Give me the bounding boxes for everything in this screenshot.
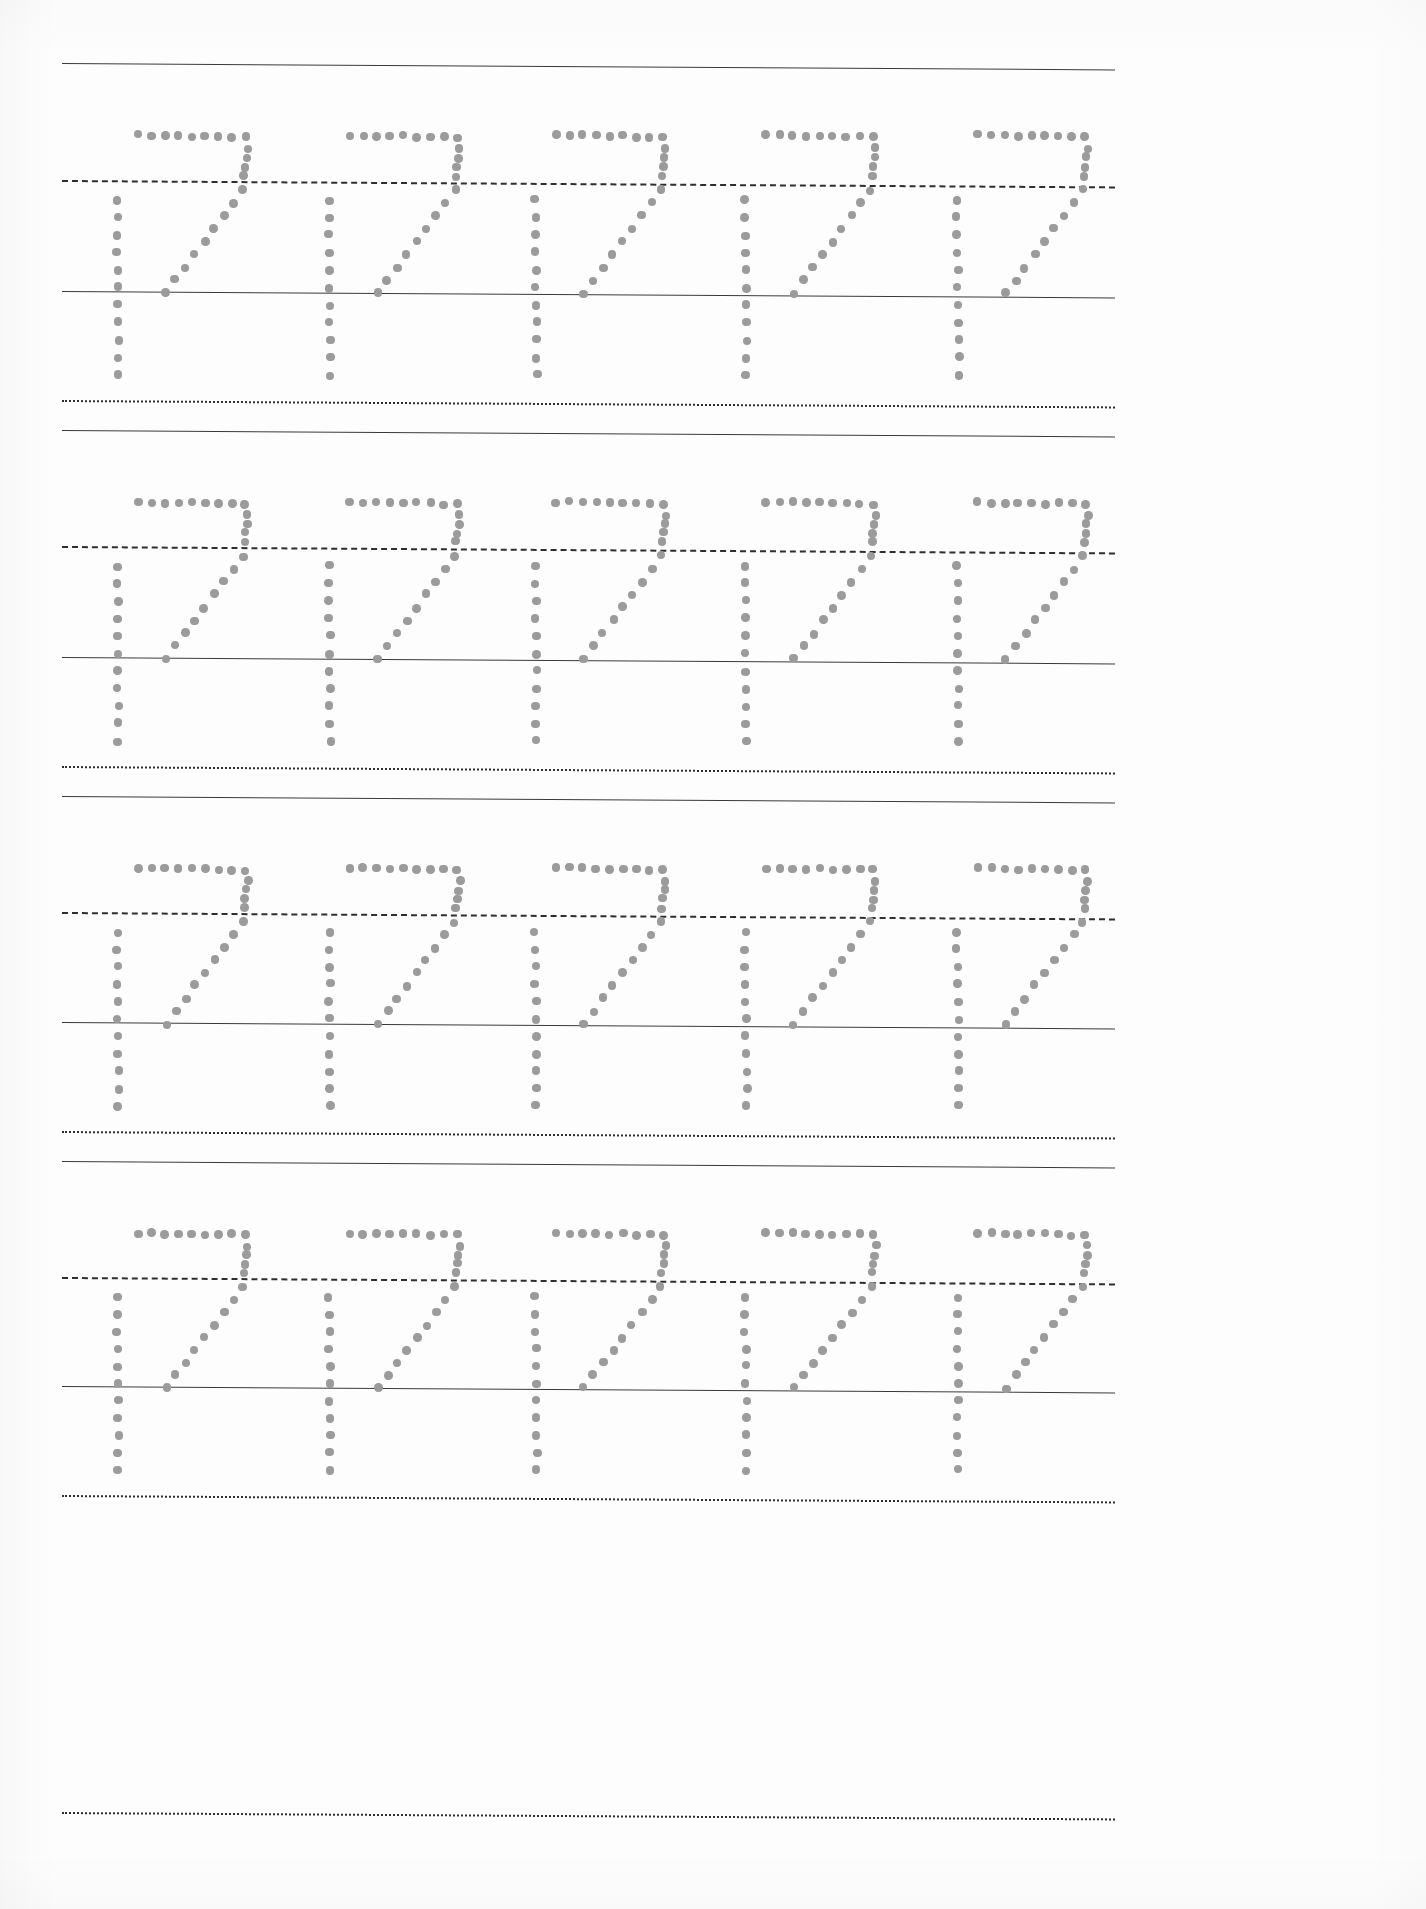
- guide-line-midline-dashed-row-2: [62, 546, 1115, 554]
- trace-dot: [819, 982, 828, 991]
- trace-dot: [147, 132, 156, 141]
- trace-dot: [608, 250, 617, 259]
- trace-dot: [210, 589, 219, 598]
- trace-dot: [450, 552, 459, 561]
- trace-dot: [1001, 1230, 1010, 1239]
- trace-dot: [426, 1231, 435, 1240]
- trace-dot: [346, 132, 355, 141]
- trace-dot: [531, 946, 540, 955]
- trace-dot: [372, 132, 381, 141]
- trace-dot: [842, 1230, 851, 1239]
- trace-dot: [855, 500, 864, 509]
- trace-dot: [326, 372, 335, 381]
- trace-dot: [423, 1322, 432, 1331]
- trace-dot: [227, 1229, 236, 1238]
- trace-dot: [325, 1311, 334, 1320]
- guide-line-top-solid-row-1: [62, 63, 1115, 70]
- trace-dot: [532, 962, 541, 971]
- trace-dot: [383, 642, 392, 651]
- trace-dot: [802, 132, 811, 141]
- trace-dot: [422, 225, 431, 234]
- worksheet-page: [0, 0, 1426, 1909]
- trace-dot: [241, 528, 250, 537]
- trace-dot: [531, 283, 540, 292]
- trace-dot: [450, 919, 459, 928]
- trace-dot: [829, 866, 838, 875]
- trace-dot: [113, 196, 122, 205]
- trace-dot: [531, 247, 540, 256]
- trace-dot: [530, 928, 539, 937]
- trace-dot: [325, 720, 334, 729]
- trace-dot: [589, 641, 598, 650]
- trace-dot: [872, 1241, 881, 1250]
- trace-dot: [645, 866, 654, 875]
- trace-dot: [741, 720, 750, 729]
- trace-dot: [1027, 1229, 1036, 1238]
- trace-dot: [1081, 163, 1090, 172]
- trace-dot: [374, 1020, 383, 1029]
- trace-dot: [953, 196, 962, 205]
- trace-dot: [552, 1229, 561, 1238]
- trace-dot: [324, 614, 333, 623]
- trace-dot: [533, 666, 542, 675]
- trace-dot: [578, 863, 587, 872]
- trace-dot: [326, 353, 335, 362]
- trace-dot: [219, 577, 228, 586]
- trace-dot: [532, 354, 541, 363]
- trace-dot: [456, 876, 465, 885]
- trace-dot: [858, 565, 867, 574]
- trace-dot: [114, 597, 123, 606]
- trace-dot: [326, 979, 335, 988]
- trace-dot: [579, 498, 588, 507]
- trace-dot: [228, 499, 237, 508]
- trace-dot: [1041, 500, 1050, 509]
- trace-dot: [661, 885, 670, 894]
- trace-dot: [828, 1231, 837, 1240]
- trace-dot: [638, 1308, 647, 1317]
- trace-dot: [199, 604, 208, 613]
- trace-dot: [134, 1230, 143, 1239]
- trace-dot: [1028, 131, 1037, 140]
- trace-dot: [326, 1327, 335, 1336]
- trace-dot: [847, 578, 856, 587]
- trace-dot: [742, 928, 751, 937]
- trace-dot: [742, 685, 751, 694]
- trace-dot: [869, 501, 878, 510]
- trace-dot: [451, 904, 460, 913]
- trace-dot: [1021, 1358, 1030, 1367]
- trace-dot: [647, 931, 656, 940]
- trace-dot: [227, 133, 236, 142]
- trace-dot: [648, 565, 657, 574]
- trace-dot: [174, 1230, 183, 1239]
- trace-dot: [432, 1308, 441, 1317]
- trace-dot: [210, 1321, 219, 1330]
- trace-dot: [324, 230, 333, 239]
- trace-dot: [802, 498, 811, 507]
- trace-dot: [113, 684, 122, 693]
- trace-dot: [1080, 132, 1089, 141]
- trace-dot: [324, 579, 333, 588]
- trace-dot: [619, 865, 628, 874]
- trace-dot: [741, 578, 750, 587]
- trace-dot: [829, 968, 838, 977]
- trace-dot: [867, 552, 876, 561]
- trace-dot: [741, 249, 750, 258]
- trace-dot: [799, 275, 808, 284]
- trace-dot: [531, 1310, 540, 1319]
- trace-dot: [412, 498, 421, 507]
- trace-dot: [1081, 500, 1090, 509]
- trace-dot: [954, 720, 963, 729]
- trace-dot: [114, 1345, 123, 1354]
- guide-line-midline-dashed-row-1: [62, 180, 1115, 188]
- trace-dot: [346, 864, 355, 873]
- trace-dot: [532, 597, 541, 606]
- trace-dot: [954, 1327, 963, 1336]
- trace-dot: [326, 336, 335, 345]
- trace-dot: [113, 1363, 122, 1372]
- trace-dot: [450, 1282, 459, 1291]
- trace-dot: [531, 230, 540, 239]
- trace-dot: [658, 537, 667, 546]
- trace-dot: [441, 1296, 450, 1305]
- trace-dot: [579, 655, 588, 664]
- trace-dot: [1081, 1260, 1090, 1269]
